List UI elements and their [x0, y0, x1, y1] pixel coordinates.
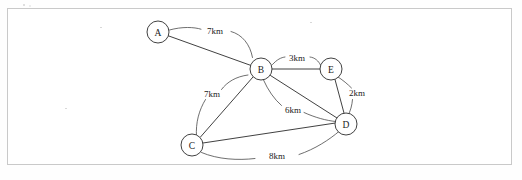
edge-weight-e-d: 2km — [349, 88, 365, 98]
leader-b-c-lower — [196, 100, 205, 137]
node-a[interactable]: A — [147, 21, 169, 43]
node-c[interactable]: C — [181, 134, 203, 156]
edge-c-d[interactable] — [203, 123, 336, 143]
node-b-label: B — [258, 65, 264, 75]
edge-weight-b-d: 6km — [285, 105, 301, 115]
edge-weight-b-e: 3km — [289, 53, 305, 63]
edge-b-c[interactable] — [201, 77, 254, 137]
leader-b-e-right — [310, 57, 321, 65]
figure-root: A B E D C 7km 3km 7km 6km — [0, 0, 522, 180]
node-d-label: D — [343, 120, 350, 130]
node-b[interactable]: B — [250, 58, 272, 80]
leader-a-b-left — [170, 27, 202, 30]
edge-weight-b-c: 7km — [204, 89, 220, 99]
leader-b-e-left — [273, 57, 286, 65]
edge-b-d[interactable] — [271, 76, 338, 119]
leader-c-d-left — [202, 153, 256, 160]
edge-e-d[interactable] — [335, 80, 344, 114]
graph-canvas: A B E D C 7km 3km 7km 6km — [0, 0, 522, 180]
scan-artifacts — [23, 4, 312, 109]
node-d[interactable]: D — [335, 113, 357, 135]
node-c-label: C — [189, 141, 195, 151]
edge-a-b[interactable] — [168, 36, 251, 66]
leader-e-d-upper — [337, 76, 352, 88]
edge-weight-label-group: 7km 3km 7km 6km 2km 8km — [204, 26, 365, 161]
node-e-label: E — [328, 65, 334, 75]
leader-c-d-right — [299, 131, 340, 155]
leader-b-d-upper — [264, 80, 282, 106]
node-e[interactable]: E — [320, 58, 342, 80]
edge-weight-a-b: 7km — [207, 26, 223, 36]
leader-a-b-right — [231, 32, 253, 58]
edge-weight-c-d: 8km — [269, 151, 285, 161]
node-a-label: A — [155, 28, 162, 38]
